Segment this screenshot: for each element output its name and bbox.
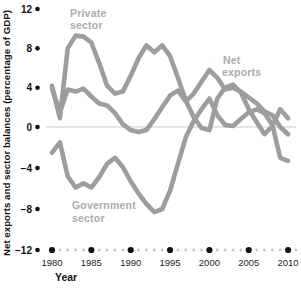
y-tick-label--12: −12 [15, 245, 32, 256]
x-tick-label-2000: 2000 [199, 257, 220, 268]
series-line-private-sector [52, 36, 288, 135]
x-minor-dot-1987 [106, 249, 109, 252]
x-minor-dot-1981 [58, 249, 61, 252]
y-tick-label-12: 12 [21, 4, 33, 15]
y-tick-label--8: −8 [21, 204, 33, 215]
net-exports-label-line1: Net [223, 54, 241, 66]
private-sector-label-line2: sector [70, 19, 103, 31]
x-minor-dot-1998 [192, 249, 195, 252]
x-major-dot-1990 [128, 247, 134, 253]
y-tick-dot-8 [35, 46, 40, 51]
government-sector-label-line2: sector [72, 212, 105, 224]
x-minor-dot-1992 [145, 249, 148, 252]
x-minor-dot-2002 [224, 249, 227, 252]
x-major-dot-1995 [167, 247, 173, 253]
net-exports-label-line2: exports [222, 66, 261, 78]
y-tick-dot--12 [35, 248, 40, 253]
series-line-net-exports [52, 70, 288, 134]
government-sector-label-line1: Government [72, 199, 136, 211]
x-tick-label-1985: 1985 [81, 257, 102, 268]
x-minor-dot-2007 [263, 249, 266, 252]
chart-canvas: 12840−4−8−121980198519901995200020052010… [0, 0, 301, 298]
y-tick-dot--4 [35, 166, 40, 171]
x-major-dot-2005 [246, 247, 252, 253]
y-tick-dot-4 [35, 85, 40, 90]
axes-layer: 12840−4−8−121980198519901995200020052010 [15, 4, 299, 268]
x-minor-dot-1997 [184, 249, 187, 252]
y-tick-label--4: −4 [21, 163, 33, 174]
x-tick-label-1980: 1980 [41, 257, 62, 268]
x-minor-dot-1996 [177, 249, 180, 252]
x-minor-dot-2006 [255, 249, 258, 252]
x-minor-dot-1989 [121, 249, 124, 252]
x-minor-dot-1999 [200, 249, 203, 252]
series-lines-layer [52, 36, 288, 213]
x-axis-title: Year [55, 271, 77, 283]
x-minor-dot-1986 [98, 249, 101, 252]
x-major-dot-2010 [285, 247, 291, 253]
x-tick-label-2005: 2005 [238, 257, 259, 268]
x-minor-dot-2001 [216, 249, 219, 252]
x-minor-dot-1991 [137, 249, 140, 252]
x-tick-label-2010: 2010 [278, 257, 299, 268]
x-tick-label-1990: 1990 [120, 257, 141, 268]
x-minor-dot-1984 [82, 249, 85, 252]
y-tick-dot--8 [35, 207, 40, 212]
y-tick-dot-12 [35, 7, 40, 12]
x-major-dot-1980 [49, 247, 55, 253]
private-sector-label-line1: Private [70, 7, 106, 19]
x-minor-dot-1994 [161, 249, 164, 252]
x-minor-dot-2003 [232, 249, 235, 252]
x-tick-label-1995: 1995 [159, 257, 180, 268]
x-minor-dot-2008 [271, 249, 274, 252]
x-minor-dot-2011 [295, 249, 298, 252]
sector-balances-line-chart: 12840−4−8−121980198519901995200020052010… [0, 0, 301, 298]
y-axis-title: Net exports and sector balances (percent… [2, 10, 12, 256]
x-minor-dot-1993 [153, 249, 156, 252]
x-minor-dot-1982 [66, 249, 69, 252]
x-minor-dot-1983 [74, 249, 77, 252]
y-tick-label-4: 4 [26, 82, 32, 93]
x-major-dot-1985 [88, 247, 94, 253]
x-minor-dot-2004 [239, 249, 242, 252]
x-minor-dot-1988 [114, 249, 117, 252]
y-tick-label-0: 0 [26, 122, 32, 133]
y-tick-label-8: 8 [26, 43, 32, 54]
x-minor-dot-2009 [279, 249, 282, 252]
y-tick-dot-0 [35, 125, 40, 130]
x-major-dot-2000 [206, 247, 212, 253]
